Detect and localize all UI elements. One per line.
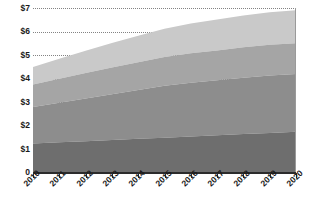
x-tick-label: 2010 bbox=[22, 169, 42, 189]
x-axis-labels: 2010201120122013201420152016201720182019… bbox=[0, 0, 310, 213]
x-tick-label: 2016 bbox=[180, 169, 200, 189]
x-tick-label: 2017 bbox=[206, 169, 226, 189]
x-tick-label: 2020 bbox=[285, 169, 305, 189]
x-tick-label: 2012 bbox=[75, 169, 95, 189]
area-chart: $7 $6 $5 $4 $3 $2 $1 0 bbox=[0, 0, 310, 213]
x-tick-label: 2014 bbox=[127, 169, 147, 189]
x-tick-label: 2019 bbox=[259, 169, 279, 189]
x-tick-label: 2013 bbox=[101, 169, 121, 189]
x-tick-label: 2011 bbox=[48, 169, 67, 188]
x-tick-label: 2018 bbox=[232, 169, 252, 189]
x-tick-label: 2015 bbox=[154, 169, 174, 189]
